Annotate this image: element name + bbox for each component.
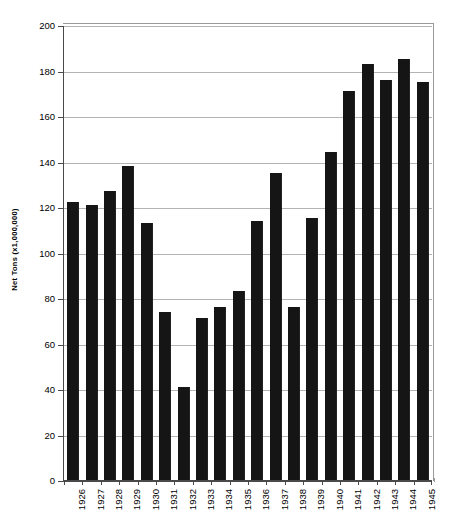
x-axis-tick-label: 1944: [408, 489, 418, 510]
x-axis-tick: [193, 480, 194, 485]
chart-title: [0, 0, 449, 2]
x-axis-tick-label: 1942: [372, 489, 382, 510]
x-axis-tick: [303, 480, 304, 485]
x-axis-tick: [230, 480, 231, 485]
x-axis-tick-label: 1931: [169, 489, 179, 510]
x-axis-tick-label: 1929: [132, 489, 142, 510]
gridline: [64, 390, 432, 391]
gridline: [64, 117, 432, 118]
gridline: [64, 26, 432, 27]
x-axis-tick-label: 1927: [96, 489, 106, 510]
x-axis-tick-label: 1935: [243, 489, 253, 510]
x-axis-tick-label: 1930: [151, 489, 161, 510]
y-axis-tick-label: 20: [44, 431, 55, 441]
x-axis-tick-label: 1938: [298, 489, 308, 510]
bar: [325, 152, 337, 480]
bar: [398, 59, 410, 480]
x-axis-tick-label: 1932: [188, 489, 198, 510]
x-axis-tick-label: 1926: [77, 489, 87, 510]
y-axis-tick-label: 0: [50, 476, 55, 486]
x-axis-tick: [414, 480, 415, 485]
bar: [178, 387, 190, 480]
bar: [122, 166, 134, 480]
plot-frame-right: [433, 23, 434, 481]
x-axis-tick-label: 1945: [427, 489, 437, 510]
x-axis-tick: [395, 480, 396, 485]
x-axis-tick: [174, 480, 175, 485]
x-axis-tick: [377, 480, 378, 485]
y-axis-tick: [58, 299, 64, 300]
y-axis-tick-label: 200: [39, 21, 55, 31]
bar: [214, 307, 226, 480]
x-axis-tick-label: 1936: [261, 489, 271, 510]
gridline: [64, 163, 432, 164]
gridline: [64, 299, 432, 300]
y-axis-tick: [58, 254, 64, 255]
bar: [380, 80, 392, 480]
gridline: [64, 436, 432, 437]
bar: [196, 318, 208, 480]
plot-area: 020406080100120140160180200 192619271928…: [63, 26, 431, 481]
x-axis-tick: [266, 480, 267, 485]
x-axis-tick-label: 1933: [206, 489, 216, 510]
bar: [343, 91, 355, 480]
bar: [104, 191, 116, 480]
bar: [159, 312, 171, 480]
bar: [86, 205, 98, 480]
y-axis-tick-label: 60: [44, 340, 55, 350]
y-axis-tick-label: 100: [39, 249, 55, 259]
x-axis-tick: [285, 480, 286, 485]
bar: [288, 307, 300, 480]
x-axis-tick: [119, 480, 120, 485]
x-axis-tick: [431, 480, 432, 485]
bar: [67, 202, 79, 480]
x-axis-tick: [82, 480, 83, 485]
y-axis-tick: [58, 208, 64, 209]
x-axis-tick: [211, 480, 212, 485]
bar: [417, 82, 429, 480]
bar-chart: Net Tons (x1,000,000) 020406080100120140…: [0, 0, 449, 531]
x-axis-tick: [138, 480, 139, 485]
bar: [270, 173, 282, 480]
y-axis-tick: [58, 436, 64, 437]
gridline: [64, 208, 432, 209]
x-axis-tick-label: 1928: [114, 489, 124, 510]
bar: [251, 221, 263, 480]
y-axis-title: Net Tons (x1,000,000): [10, 180, 19, 320]
bar: [141, 223, 153, 480]
y-axis-tick: [58, 72, 64, 73]
y-axis-tick-label: 40: [44, 385, 55, 395]
y-axis-tick: [58, 345, 64, 346]
x-axis-tick: [340, 480, 341, 485]
x-axis-tick-label: 1941: [353, 489, 363, 510]
y-axis-tick-label: 140: [39, 158, 55, 168]
y-axis-tick: [58, 390, 64, 391]
bar: [362, 64, 374, 480]
y-axis-tick: [58, 117, 64, 118]
x-axis-tick-label: 1940: [335, 489, 345, 510]
x-axis-tick: [358, 480, 359, 485]
x-axis-tick-label: 1943: [390, 489, 400, 510]
x-axis-tick: [322, 480, 323, 485]
x-axis-tick: [101, 480, 102, 485]
y-axis-tick-label: 180: [39, 67, 55, 77]
gridline: [64, 72, 432, 73]
plot-frame-top: [66, 23, 434, 24]
x-axis-tick-label: 1939: [316, 489, 326, 510]
x-axis-tick-label: 1937: [280, 489, 290, 510]
x-axis-tick: [156, 480, 157, 485]
y-axis-tick-label: 120: [39, 203, 55, 213]
x-axis-tick-label: 1934: [224, 489, 234, 510]
y-axis-tick: [58, 26, 64, 27]
x-axis-tick: [248, 480, 249, 485]
x-axis-tick: [64, 480, 65, 485]
y-axis-tick-label: 160: [39, 112, 55, 122]
y-axis-tick: [58, 163, 64, 164]
gridline: [64, 345, 432, 346]
y-axis-tick-label: 80: [44, 294, 55, 304]
bar: [306, 218, 318, 480]
bar: [233, 291, 245, 480]
gridline: [64, 254, 432, 255]
